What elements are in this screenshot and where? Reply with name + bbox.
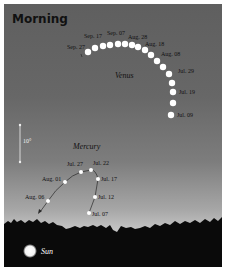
venus-date-label: Sep. 07	[107, 30, 125, 36]
sun-icon	[23, 244, 37, 258]
mercury-date-label: Jul. 22	[93, 160, 109, 166]
venus-date-label: Sep. 27	[67, 44, 85, 50]
mercury-date-label: Jul. 07	[92, 211, 108, 217]
sky-chart: Morning Sep. 27 Sep. 17 Sep. 07	[4, 4, 222, 267]
venus-date-label: Jul. 09	[177, 112, 193, 118]
scale-label: 10°	[23, 138, 32, 144]
mercury-date-label: Aug. 06	[25, 194, 44, 200]
chart-svg: Morning Sep. 27 Sep. 17 Sep. 07	[4, 4, 222, 267]
sun-label: Sun	[41, 247, 53, 256]
mercury-label: Mercury	[72, 142, 101, 151]
venus-date-label: Aug. 18	[145, 41, 164, 47]
mercury-date-label: Jul. 27	[67, 161, 83, 167]
mercury-date-label: Jul. 17	[101, 176, 117, 182]
venus-date-label: Jul. 19	[179, 89, 195, 95]
venus-date-label: Aug. 28	[128, 34, 147, 40]
scale-bar	[19, 124, 21, 163]
venus-date-label: Sep. 17	[84, 33, 102, 39]
venus-label: Venus	[115, 71, 134, 80]
venus-date-label: Aug. 08	[161, 51, 180, 57]
venus-date-label: Jul. 29	[178, 68, 194, 74]
mercury-date-label: Jul. 12	[98, 194, 114, 200]
chart-title: Morning	[12, 12, 68, 26]
treeline-silhouette	[4, 217, 222, 267]
mercury-date-label: Aug. 01	[42, 176, 61, 182]
